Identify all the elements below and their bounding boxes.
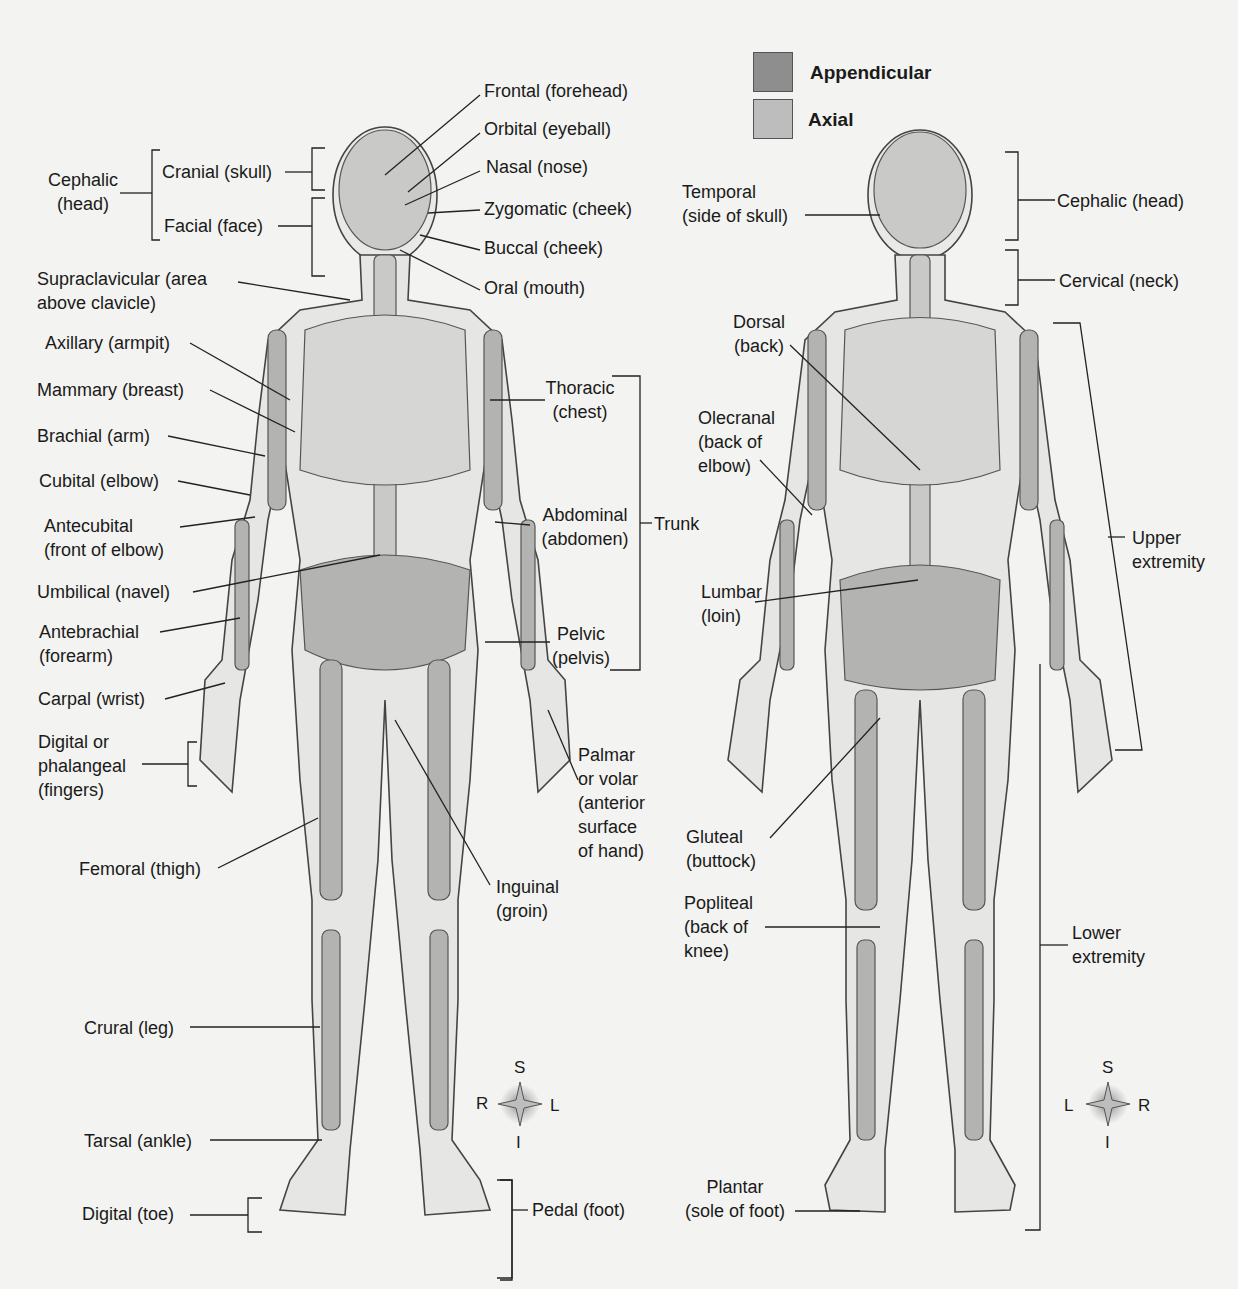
- compass-posterior-right: R: [1138, 1096, 1150, 1116]
- label-inguinal: Inguinal(groin): [496, 875, 559, 923]
- label-tarsal: Tarsal (ankle): [84, 1129, 192, 1153]
- label-palmar: Palmaror volar(anteriorsurfaceof hand): [578, 743, 645, 863]
- label-supraclavicular: Supraclavicular (areaabove clavicle): [37, 267, 207, 315]
- label-plantar: Plantar(sole of foot): [676, 1175, 794, 1223]
- label-nasal: Nasal (nose): [486, 155, 588, 179]
- compass-posterior-inferior: I: [1105, 1133, 1110, 1153]
- compass-anterior-inferior: I: [516, 1133, 521, 1153]
- label-carpal: Carpal (wrist): [38, 687, 145, 711]
- label-pelvic: Pelvic(pelvis): [546, 622, 616, 670]
- label-popliteal: Popliteal(back ofknee): [684, 891, 753, 963]
- label-femoral: Femoral (thigh): [79, 857, 201, 881]
- label-cranial: Cranial (skull): [162, 160, 272, 184]
- label-antecubital: Antecubital(front of elbow): [44, 514, 164, 562]
- axial-swatch: [753, 99, 793, 139]
- label-dorsal: Dorsal(back): [726, 310, 792, 358]
- label-cubital: Cubital (elbow): [39, 469, 159, 493]
- label-oral: Oral (mouth): [484, 276, 585, 300]
- anatomy-figures: [0, 0, 1238, 1289]
- label-facial: Facial (face): [164, 214, 263, 238]
- label-trunk: Trunk: [654, 512, 699, 536]
- compass-anterior-left: L: [550, 1096, 559, 1116]
- label-gluteal: Gluteal(buttock): [686, 825, 756, 873]
- label-upper-extremity: Upperextremity: [1132, 526, 1205, 574]
- label-zygomatic: Zygomatic (cheek): [484, 197, 632, 221]
- legend-appendicular-label: Appendicular: [810, 62, 931, 84]
- compass-star-posterior: [1086, 1082, 1130, 1126]
- label-mammary: Mammary (breast): [37, 378, 184, 402]
- label-cephalic-head: Cephalic (head): [1057, 189, 1184, 213]
- label-axillary: Axillary (armpit): [45, 331, 170, 355]
- compass-posterior-superior: S: [1102, 1058, 1113, 1078]
- label-cervical: Cervical (neck): [1059, 269, 1179, 293]
- label-temporal: Temporal(side of skull): [682, 180, 788, 228]
- label-frontal: Frontal (forehead): [484, 79, 628, 103]
- compass-anterior-superior: S: [514, 1058, 525, 1078]
- label-buccal: Buccal (cheek): [484, 236, 603, 260]
- label-antebrachial: Antebrachial(forearm): [39, 620, 139, 668]
- label-orbital: Orbital (eyeball): [484, 117, 611, 141]
- label-crural: Crural (leg): [84, 1016, 174, 1040]
- compass-star-anterior: [498, 1082, 542, 1126]
- label-cephalic: Cephalic(head): [40, 168, 126, 216]
- label-pedal: Pedal (foot): [532, 1198, 625, 1222]
- label-brachial: Brachial (arm): [37, 424, 150, 448]
- compass-anterior-right: R: [476, 1094, 488, 1114]
- label-lumbar: Lumbar(loin): [701, 580, 762, 628]
- appendicular-swatch: [753, 52, 793, 92]
- legend-axial-label: Axial: [808, 109, 853, 131]
- compass-posterior-left: L: [1064, 1096, 1073, 1116]
- label-digital-fingers: Digital orphalangeal(fingers): [38, 730, 126, 802]
- label-umbilical: Umbilical (navel): [37, 580, 170, 604]
- label-lower-extremity: Lowerextremity: [1072, 921, 1145, 969]
- label-abdominal: Abdominal(abdomen): [532, 503, 638, 551]
- label-thoracic: Thoracic(chest): [540, 376, 620, 424]
- label-olecranal: Olecranal(back ofelbow): [698, 406, 775, 478]
- label-digital-toe: Digital (toe): [82, 1202, 174, 1226]
